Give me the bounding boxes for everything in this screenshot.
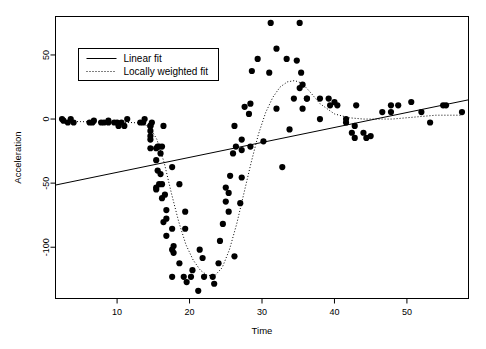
data-point [121, 123, 127, 129]
y-tick-label-50: 50 [42, 50, 52, 60]
data-point [291, 95, 297, 101]
x-tick-label-20: 20 [185, 307, 195, 317]
data-point [443, 102, 449, 108]
data-point [239, 136, 245, 142]
data-point [352, 123, 358, 129]
data-point [231, 123, 237, 129]
data-point [223, 198, 229, 204]
data-point [239, 174, 245, 180]
data-point [163, 233, 169, 239]
data-point [388, 109, 394, 115]
data-point [242, 104, 248, 110]
data-point [226, 190, 232, 196]
data-point [304, 95, 310, 101]
data-point [352, 135, 358, 141]
data-point [169, 164, 175, 170]
data-point [211, 281, 217, 287]
data-point [388, 102, 394, 108]
data-point [268, 20, 274, 26]
data-point [230, 150, 236, 156]
data-point [189, 267, 195, 273]
scatter-plot-figure: 1020304050500-50-100TimeAccelerationLine… [0, 0, 486, 349]
data-point [326, 95, 332, 101]
y-axis-title: Acceleration [12, 131, 23, 183]
data-point [188, 274, 194, 280]
data-point [124, 116, 130, 122]
data-point [273, 46, 279, 52]
data-point [299, 82, 305, 88]
data-point [284, 56, 290, 62]
data-point [199, 255, 205, 261]
data-point [157, 150, 163, 156]
legend-label-2: Locally weighted fit [124, 66, 209, 77]
legend-label-1: Linear fit [124, 53, 163, 64]
data-point [408, 99, 414, 105]
data-point [227, 173, 233, 179]
data-point [246, 111, 252, 117]
x-tick-label-10: 10 [112, 307, 122, 317]
data-point [353, 102, 359, 108]
data-point [91, 118, 97, 124]
data-point [163, 207, 169, 213]
data-point [215, 260, 221, 266]
data-point [317, 116, 323, 122]
data-point [255, 56, 261, 62]
data-point [237, 200, 243, 206]
data-point [182, 209, 188, 215]
data-point [160, 123, 166, 129]
data-point [368, 133, 374, 139]
data-point [195, 288, 201, 294]
data-point [210, 274, 216, 280]
data-point [260, 138, 266, 144]
x-tick-label-30: 30 [257, 307, 267, 317]
data-point [273, 106, 279, 112]
data-point [343, 119, 349, 125]
data-point [171, 243, 177, 249]
data-point [226, 209, 232, 215]
data-point [459, 109, 465, 115]
data-point [299, 106, 305, 112]
data-point [239, 147, 245, 153]
data-point [317, 95, 323, 101]
data-point [171, 250, 177, 256]
data-point [169, 226, 175, 232]
data-point [249, 68, 255, 74]
y-tick-label--50: -50 [42, 177, 52, 190]
data-point [266, 70, 272, 76]
data-point [159, 181, 165, 187]
data-point [217, 238, 223, 244]
data-point [418, 109, 424, 115]
data-point [176, 181, 182, 187]
data-point [181, 274, 187, 280]
data-point [286, 126, 292, 132]
data-point [279, 164, 285, 170]
data-point [142, 116, 148, 122]
data-point [294, 57, 300, 63]
plot-canvas: 1020304050500-50-100TimeAccelerationLine… [0, 0, 486, 349]
data-point [153, 157, 159, 163]
data-point [201, 274, 207, 280]
data-point [197, 247, 203, 253]
data-point [427, 119, 433, 125]
data-point [153, 186, 159, 192]
y-tick-label--100: -100 [42, 238, 52, 256]
data-point [182, 226, 188, 232]
data-point [334, 102, 340, 108]
data-point [184, 279, 190, 285]
data-point [247, 144, 253, 150]
data-point [297, 20, 303, 26]
data-point [379, 109, 385, 115]
data-point [147, 128, 153, 134]
data-point [147, 145, 153, 151]
data-point [395, 102, 401, 108]
y-tick-label-0: 0 [42, 117, 52, 122]
data-point [223, 185, 229, 191]
loess-fit-line [62, 81, 462, 276]
x-tick-label-40: 40 [329, 307, 339, 317]
data-point [169, 274, 175, 280]
data-point [159, 144, 165, 150]
legend: Linear fitLocally weighted fit [79, 49, 219, 81]
data-point [176, 260, 182, 266]
data-point [157, 171, 163, 177]
data-point [149, 119, 155, 125]
